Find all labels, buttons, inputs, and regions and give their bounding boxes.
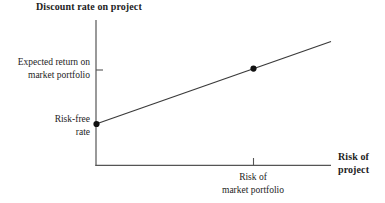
x-tick-label-risk-market-portfolio: Risk of market portfolio xyxy=(195,171,311,196)
chart-figure: Discount rate on project Expected return… xyxy=(0,0,385,203)
data-point-market-portfolio xyxy=(250,66,256,72)
y-tick-label-risk-free-rate: Risk-free rate xyxy=(20,113,90,138)
x-axis-title: Risk of project xyxy=(338,151,385,176)
chart-plot-area xyxy=(0,0,385,203)
y-tick-label-expected-return: Expected return on market portfolio xyxy=(0,56,90,81)
data-point-risk-free-rate xyxy=(93,121,99,127)
security-market-line xyxy=(96,42,331,125)
